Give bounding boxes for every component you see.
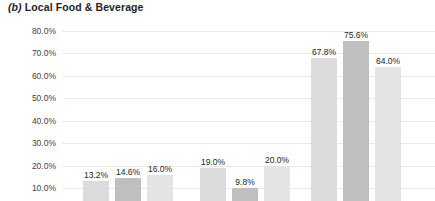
bar-g1-s3-value-label: 16.0% — [141, 164, 179, 174]
chart-figure: (b) Local Food & Beverage 10.0%20.0%30.0… — [0, 0, 435, 201]
bar-g1-s2 — [115, 178, 141, 201]
y-tick-label: 80.0% — [32, 26, 56, 36]
y-tick-label: 20.0% — [32, 161, 56, 171]
bar-g1-s1 — [83, 181, 109, 201]
y-axis: 10.0%20.0%30.0%40.0%50.0%60.0%70.0%80.0% — [0, 0, 62, 201]
bar-g3-s3-value-label: 64.0% — [369, 56, 407, 66]
y-tick-label: 50.0% — [32, 93, 56, 103]
bar-g2-s3-value-label: 20.0% — [258, 155, 296, 165]
y-tick-label: 60.0% — [32, 71, 56, 81]
gridline — [62, 53, 435, 54]
bar-g3-s1-value-label: 67.8% — [305, 47, 343, 57]
bar-g2-s2 — [232, 188, 258, 201]
bar-g2-s3 — [264, 166, 290, 201]
y-tick-label: 70.0% — [32, 48, 56, 58]
bar-g2-s1 — [200, 168, 226, 201]
bar-g3-s1 — [311, 58, 337, 201]
bar-g3-s3 — [375, 67, 401, 201]
bar-g2-s2-value-label: 9.8% — [226, 177, 264, 187]
plot-area: 13.2%14.6%16.0%19.0%9.8%20.0%67.8%75.6%6… — [62, 31, 435, 201]
y-tick-label: 10.0% — [32, 183, 56, 193]
bar-g2-s1-value-label: 19.0% — [194, 157, 232, 167]
y-tick-label: 40.0% — [32, 116, 56, 126]
bar-g3-s2 — [343, 41, 369, 201]
bar-g1-s3 — [147, 175, 173, 201]
bar-g3-s2-value-label: 75.6% — [337, 30, 375, 40]
y-tick-label: 30.0% — [32, 138, 56, 148]
gridline — [62, 31, 435, 32]
